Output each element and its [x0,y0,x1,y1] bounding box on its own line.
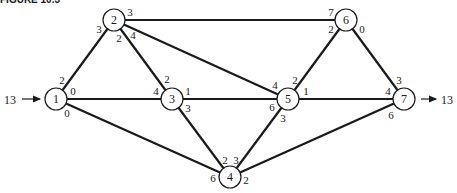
node-4: 4 [219,166,241,188]
edge-1-4 [56,99,230,177]
network-flow-diagram: 13 13 2 3 0 4 0 6 2 2 4 4 3 7 1 6 3 2 3 … [0,0,457,193]
sink-flow-label: 13 [441,93,453,107]
cap-6-7-at-7: 3 [396,74,402,86]
cap-2-5-at-2: 4 [130,29,136,41]
node-7: 7 [393,88,415,110]
cap-5-4-at-4: 3 [233,154,239,166]
cap-5-4-at-5: 3 [280,112,286,124]
edge-2-3 [114,20,172,99]
cap-1-2-at-1: 2 [59,74,65,86]
node-3-label: 3 [169,92,175,106]
cap-2-5-at-5: 4 [272,79,278,91]
node-6: 6 [335,9,357,31]
cap-1-3-at-1: 0 [70,85,76,97]
cap-5-7-at-7: 4 [385,85,391,97]
edge-6-7 [346,20,404,99]
cap-3-4-at-3: 3 [185,102,191,114]
node-1: 1 [45,88,67,110]
node-1-label: 1 [53,92,59,106]
edge-2-5 [114,20,288,99]
cap-3-5-at-3: 1 [185,85,191,97]
node-2-label: 2 [111,13,117,27]
edge-5-6 [288,20,346,99]
cap-1-2-at-2: 3 [96,23,102,35]
source-arrow: 13 [4,93,40,107]
node-5-label: 5 [285,92,291,106]
edge-1-2 [56,20,114,99]
sink-arrow: 13 [421,93,453,107]
cap-2-3-at-2: 2 [116,32,122,44]
capacity-labels: 2 3 0 4 0 6 2 2 4 4 3 7 1 6 3 2 3 3 2 2 … [59,6,402,186]
source-flow-label: 13 [4,93,16,107]
cap-6-7-at-6: 0 [359,23,365,35]
node-2: 2 [103,9,125,31]
cap-2-6-at-6: 7 [328,6,334,18]
cap-4-7-at-7: 6 [388,109,394,121]
cap-5-7-at-5: 1 [303,85,309,97]
node-3: 3 [161,88,183,110]
cap-2-3-at-3: 2 [164,73,170,85]
node-7-label: 7 [401,92,407,106]
cap-5-6-at-5: 2 [292,74,298,86]
cap-3-4-at-4: 2 [222,154,228,166]
edge-4-7 [230,99,404,177]
node-5: 5 [277,88,299,110]
cap-1-3-at-3: 4 [153,85,159,97]
cap-5-6-at-6: 2 [328,23,334,35]
cap-2-6-at-2: 3 [127,6,133,18]
cap-1-4-at-4: 6 [210,172,216,184]
node-6-label: 6 [343,13,349,27]
node-4-label: 4 [227,170,233,184]
cap-3-5-at-5: 6 [269,101,275,113]
cap-1-4-at-1: 0 [64,107,70,119]
cap-4-7-at-4: 2 [243,174,249,186]
edges [56,20,404,177]
